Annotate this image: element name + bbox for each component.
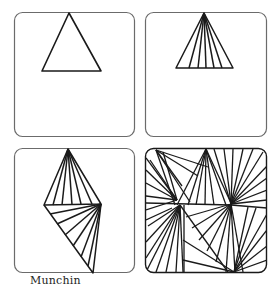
tangle-steps-canvas: [0, 0, 275, 292]
tile-step-1: [15, 13, 135, 137]
tile-step-2: [146, 13, 267, 137]
tangle-name-caption: Munchin: [30, 274, 81, 287]
tile-step-4: [146, 149, 268, 273]
tile-step-3: [15, 149, 135, 274]
